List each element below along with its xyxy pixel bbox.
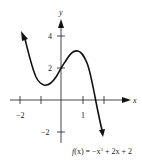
y-axis-label: y: [58, 8, 63, 17]
function-graph: x −2 1 y 4 2 −2 f(x) = −x3 + 2x + 2: [0, 0, 142, 163]
y-axis: y 4 2 −2: [41, 8, 65, 143]
y-tick-label: −2: [41, 128, 50, 137]
x-tick-label: 1: [81, 111, 85, 120]
y-tick-label: 4: [48, 32, 52, 41]
y-axis-arrow-icon: [58, 19, 64, 28]
curve-arrow-up-icon: [21, 31, 28, 41]
function-curve: [25, 39, 102, 130]
function-label: f(x) = −x3 + 2x + 2: [72, 147, 132, 156]
x-axis-label: x: [132, 96, 137, 105]
x-axis: x −2 1: [10, 96, 137, 120]
y-tick-label: 2: [48, 64, 52, 73]
curve-arrow-down-icon: [99, 129, 105, 137]
x-axis-arrow-icon: [122, 97, 131, 103]
x-tick-label: −2: [16, 111, 25, 120]
